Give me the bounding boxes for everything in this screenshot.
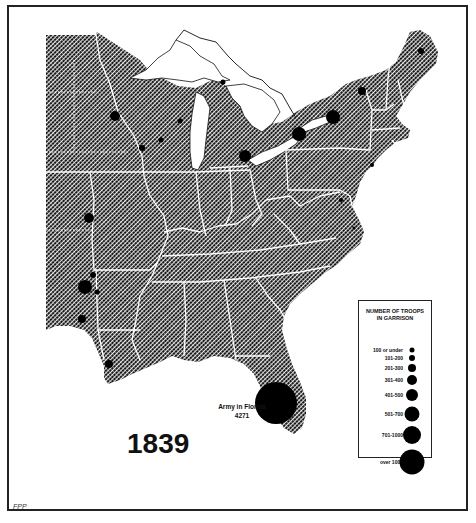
garrison-plattsburgh — [358, 87, 366, 95]
garrison-fort-smith — [90, 272, 96, 278]
circle-icon — [407, 375, 417, 385]
garrison-fort-howard — [178, 119, 183, 124]
circle-icon — [406, 389, 418, 401]
legend-title: NUMBER OF TROOPS IN GARRISON — [359, 308, 431, 322]
lake-superior — [130, 40, 230, 82]
garrison-fort-winnebago — [159, 138, 164, 143]
garrison-fort-leavenworth — [84, 213, 94, 223]
circle-icon — [408, 364, 416, 372]
florida-army-count: 4271 — [207, 411, 277, 420]
legend-item-label: 301-400 — [385, 377, 403, 383]
circle-icon — [403, 426, 421, 444]
garrison-fort-snelling — [110, 111, 120, 121]
garrison-mackinac — [221, 80, 226, 85]
florida-army-text: Army in Florida — [207, 402, 277, 411]
credit-initials: FPP — [13, 503, 27, 510]
legend-item-label: 501-700 — [385, 411, 403, 417]
garrison-fort-monroe — [353, 227, 356, 230]
circle-icon — [410, 348, 415, 353]
florida-army-label: Army in Florida 4271 — [207, 402, 277, 420]
garrison-detroit — [239, 150, 251, 162]
legend-title-line1: NUMBER OF TROOPS — [359, 308, 431, 315]
circle-icon — [405, 407, 420, 422]
circle-icon — [400, 450, 425, 475]
garrison-fort-crawford — [139, 145, 145, 151]
legend-item-label: 100 or under — [373, 347, 403, 353]
garrison-fort-jesup — [105, 360, 113, 368]
circle-icon — [409, 355, 415, 361]
legend-item-label: 101-200 — [385, 355, 403, 361]
garrison-houlton — [418, 48, 424, 54]
legend-title-line2: IN GARRISON — [359, 315, 431, 322]
garrison-washington — [339, 198, 343, 202]
garrison-fort-niagara — [292, 127, 306, 141]
legend: NUMBER OF TROOPS IN GARRISON 100 or unde… — [358, 300, 432, 458]
legend-item-label: 701-1000 — [382, 432, 403, 438]
garrison-new-york — [370, 163, 374, 167]
legend-item-label: 401-500 — [385, 392, 403, 398]
legend-item-label: 201-300 — [385, 365, 403, 371]
garrison-sackets-harbor — [326, 110, 340, 124]
garrison-fort-gibson — [78, 280, 92, 294]
garrison-fort-coffee — [95, 290, 100, 295]
garrison-fort-towson — [78, 315, 86, 323]
year-label: 1839 — [127, 428, 189, 460]
